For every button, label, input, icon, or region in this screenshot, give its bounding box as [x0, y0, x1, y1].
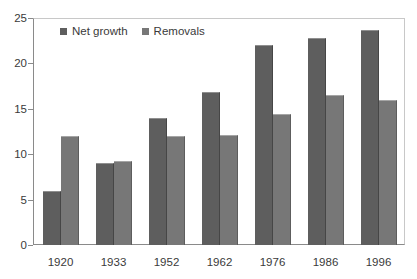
x-axis-tick-label: 1996	[366, 256, 392, 268]
bar-net-growth-1933	[96, 163, 114, 245]
bar-removals-1996	[379, 100, 397, 245]
x-axis-tick-label: 1933	[101, 256, 127, 268]
bars-layer	[34, 18, 405, 245]
chart-legend: Net growthRemovals	[60, 25, 205, 37]
legend-swatch-icon	[142, 28, 149, 35]
x-axis-tick-label: 1920	[48, 256, 74, 268]
y-axis-tick-mark	[28, 154, 33, 155]
y-axis-tick-label: 20	[1, 58, 27, 69]
y-axis-tick-label: 5	[1, 194, 27, 205]
bar-removals-1976	[273, 114, 291, 245]
y-axis-tick-label: 10	[1, 149, 27, 160]
bar-net-growth-1986	[308, 38, 326, 245]
bar-chart: 0510152025 1920193319521962197619861996 …	[0, 0, 417, 279]
x-axis-tick-label: 1952	[154, 256, 180, 268]
bar-removals-1920	[61, 136, 79, 245]
legend-label: Net growth	[72, 25, 128, 37]
y-axis-tick-label: 15	[1, 103, 27, 114]
bar-removals-1933	[114, 161, 132, 245]
bar-removals-1962	[220, 135, 238, 245]
x-axis-tick-label: 1962	[207, 256, 233, 268]
x-axis-tick-label: 1976	[260, 256, 286, 268]
x-axis: 1920193319521962197619861996	[33, 246, 405, 279]
bar-net-growth-1952	[149, 118, 167, 245]
y-axis-tick-mark	[28, 200, 33, 201]
y-axis-tick-mark	[28, 63, 33, 64]
y-axis-tick-mark	[28, 18, 33, 19]
legend-swatch-icon	[60, 28, 67, 35]
legend-label: Removals	[154, 25, 205, 37]
legend-item-removals[interactable]: Removals	[142, 25, 205, 37]
bar-net-growth-1976	[255, 45, 273, 245]
bar-net-growth-1996	[361, 30, 379, 245]
x-axis-tick-label: 1986	[313, 256, 339, 268]
bar-net-growth-1962	[202, 92, 220, 245]
bar-removals-1986	[326, 95, 344, 245]
y-axis-tick-mark	[28, 109, 33, 110]
y-axis-tick-label: 0	[1, 240, 27, 251]
legend-item-net-growth[interactable]: Net growth	[60, 25, 128, 37]
y-axis-tick-label: 25	[1, 13, 27, 24]
bar-removals-1952	[167, 136, 185, 245]
y-axis: 0510152025	[0, 0, 33, 279]
bar-net-growth-1920	[43, 191, 61, 245]
